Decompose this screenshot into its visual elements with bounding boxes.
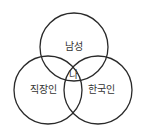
venn-diagram <box>0 0 144 136</box>
label-korean: 한국인 <box>88 85 115 95</box>
label-office-worker: 직장인 <box>30 85 57 95</box>
label-male: 남성 <box>65 42 83 52</box>
label-intersection-me: 나 <box>69 70 78 80</box>
